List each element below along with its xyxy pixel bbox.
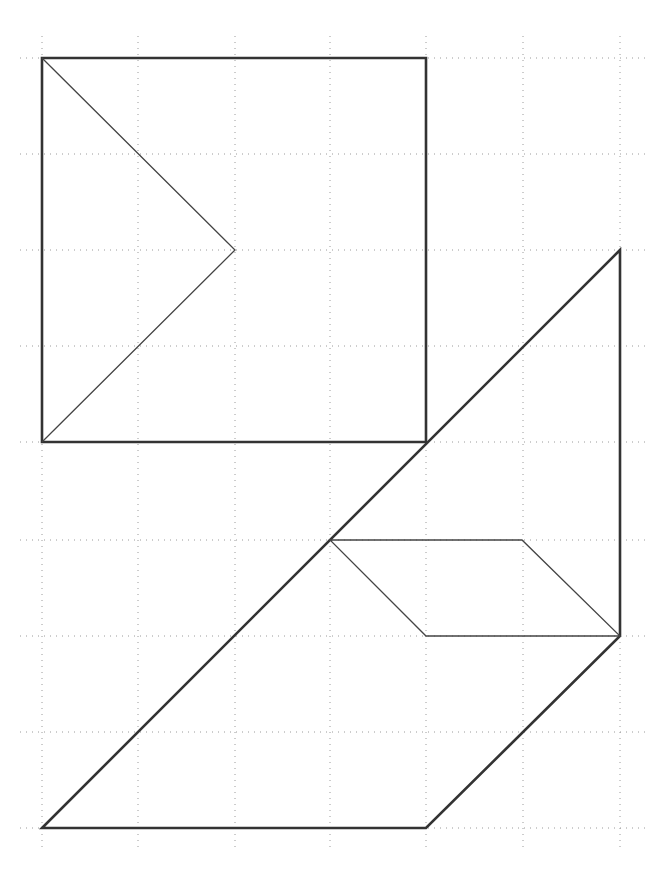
large-trapezoid-shape	[42, 250, 620, 828]
parallelogram-shape	[330, 540, 620, 636]
geometry-diagram	[0, 0, 666, 870]
